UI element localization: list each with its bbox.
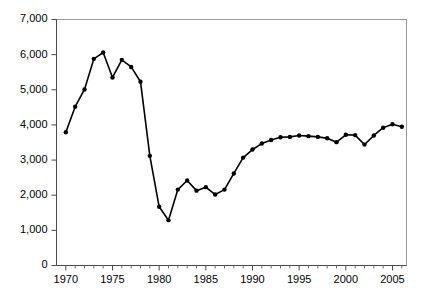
data-series (66, 53, 402, 221)
x-tick-label: 1970 (54, 273, 78, 285)
data-point (362, 142, 366, 146)
x-tick-label: 2000 (334, 273, 358, 285)
series-line (66, 53, 402, 221)
data-point (372, 133, 376, 137)
data-point (353, 133, 357, 137)
data-point-markers (64, 50, 404, 222)
data-point (381, 126, 385, 130)
data-point (110, 75, 114, 79)
x-tick-label: 1995 (287, 273, 311, 285)
x-tick-label: 1980 (147, 273, 171, 285)
data-point (101, 50, 105, 54)
data-point (213, 192, 217, 196)
data-point (148, 154, 152, 158)
y-tick-label: 7,000 (20, 12, 48, 24)
data-point (222, 187, 226, 191)
data-point (297, 133, 301, 137)
data-point (400, 124, 404, 128)
data-point (129, 65, 133, 69)
data-point (204, 185, 208, 189)
x-axis-labels: 19701975198019851990199520002005 (54, 273, 405, 285)
x-axis-ticks (66, 266, 393, 271)
y-axis-labels: 01,0002,0003,0004,0005,0006,0007,000 (20, 12, 48, 270)
data-point (269, 138, 273, 142)
y-tick-label: 6,000 (20, 48, 48, 60)
data-point (120, 58, 124, 62)
x-tick-label: 1975 (100, 273, 124, 285)
y-tick-label: 0 (41, 258, 47, 270)
data-point (176, 187, 180, 191)
y-tick-label: 5,000 (20, 83, 48, 95)
line-chart: 01,0002,0003,0004,0005,0006,0007,000 197… (0, 0, 432, 297)
data-point (92, 57, 96, 61)
y-tick-label: 1,000 (20, 223, 48, 235)
data-point (306, 134, 310, 138)
data-point (325, 136, 329, 140)
data-point (166, 218, 170, 222)
data-point (288, 135, 292, 139)
data-point (278, 135, 282, 139)
chart-container: 01,0002,0003,0004,0005,0006,0007,000 197… (0, 0, 432, 297)
data-point (250, 147, 254, 151)
data-point (316, 135, 320, 139)
x-tick-label: 1985 (194, 273, 218, 285)
y-tick-label: 4,000 (20, 118, 48, 130)
data-point (73, 104, 77, 108)
data-point (138, 80, 142, 84)
data-point (157, 205, 161, 209)
data-point (260, 141, 264, 145)
data-point (82, 87, 86, 91)
data-point (64, 130, 68, 134)
data-point (232, 171, 236, 175)
data-point (334, 140, 338, 144)
y-tick-label: 2,000 (20, 188, 48, 200)
plot-frame (57, 20, 407, 266)
data-point (185, 178, 189, 182)
data-point (344, 133, 348, 137)
data-point (194, 188, 198, 192)
x-tick-label: 1990 (240, 273, 264, 285)
data-point (241, 155, 245, 159)
data-point (390, 122, 394, 126)
x-tick-label: 2005 (380, 273, 404, 285)
y-tick-label: 3,000 (20, 153, 48, 165)
